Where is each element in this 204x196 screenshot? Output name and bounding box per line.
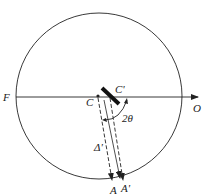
diagram-canvas: F O C C' 2θ Δ' A A' (0, 0, 204, 196)
label-o: O (193, 102, 201, 114)
label-a: A (109, 184, 117, 196)
label-c: C (86, 96, 94, 108)
point-c (96, 94, 99, 97)
label-a-prime: A' (120, 182, 131, 194)
label-c-prime: C' (115, 83, 125, 95)
label-angle: 2θ (122, 112, 134, 124)
label-f: F (2, 91, 10, 103)
angle-arc-arrow-bottom (102, 118, 107, 122)
ray-c-to-a (98, 98, 112, 180)
label-delta: Δ' (93, 141, 103, 153)
angle-arc-arrow-top (124, 98, 128, 104)
